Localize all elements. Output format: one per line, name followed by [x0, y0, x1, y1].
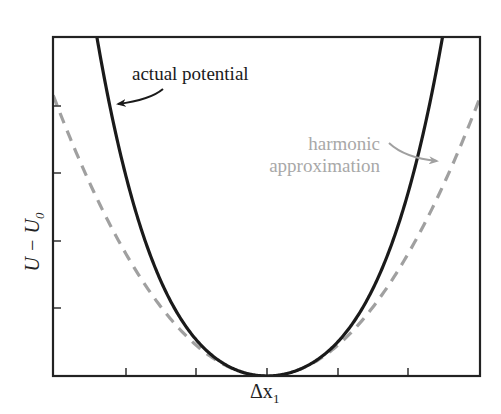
actual-potential-curve: [80, 0, 450, 376]
potential-energy-chart: actual potential harmonic approximation …: [0, 0, 501, 414]
actual-potential-arrow-icon: [118, 89, 163, 104]
y-axis-ticks: [53, 106, 61, 308]
x-axis-label: Δx1: [250, 380, 279, 406]
x-axis-ticks: [126, 368, 408, 376]
y-axis-label: U − U0: [21, 212, 47, 271]
harmonic-label-line1: harmonic: [308, 133, 380, 154]
actual-potential-label: actual potential: [132, 63, 249, 84]
harmonic-approximation-curve: [40, 60, 494, 376]
harmonic-label-line2: approximation: [269, 155, 380, 176]
harmonic-arrow-icon: [389, 143, 437, 161]
plot-frame: [53, 37, 480, 376]
